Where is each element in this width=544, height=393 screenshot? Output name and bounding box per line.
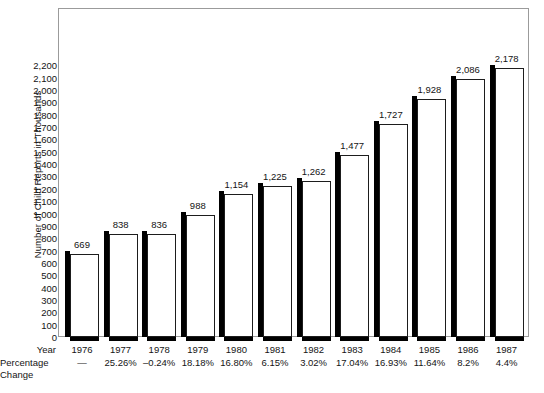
bar-front-face[interactable] <box>456 79 485 337</box>
bars-layer: 6698388369881,1541,2251,2621,4771,7271,9… <box>59 9 528 337</box>
bar-value-label: 836 <box>151 220 167 230</box>
y-axis-tick-label: 200 <box>14 308 57 318</box>
bar-group[interactable]: 669 <box>65 240 99 337</box>
y-axis-tick-label: 800 <box>14 234 57 244</box>
y-axis-tick-label: 100 <box>14 321 57 331</box>
bar-front-face[interactable] <box>109 234 138 337</box>
bar-value-label: 1,928 <box>418 85 442 95</box>
y-axis-tick-label: 600 <box>14 259 57 269</box>
row-header-percentage-change: Percentage Change <box>0 357 64 380</box>
bar-group[interactable]: 1,262 <box>297 167 331 337</box>
y-axis-tick-label: 1,100 <box>14 197 57 207</box>
bar-front-face[interactable] <box>495 68 524 337</box>
y-axis-tick-label: 1,000 <box>14 210 57 220</box>
y-axis-tick-label: 500 <box>14 271 57 281</box>
y-axis-tick-label: 1,500 <box>14 148 57 158</box>
bar-chart-figure: Number of Child Reports in Thousands 010… <box>0 0 544 393</box>
bar-front-face[interactable] <box>417 99 446 337</box>
bar-group[interactable]: 1,477 <box>335 141 369 337</box>
bar-value-label: 1,262 <box>302 167 326 177</box>
row-header-percentage-line1: Percentage <box>0 357 64 369</box>
bar-front-face[interactable] <box>340 155 369 337</box>
bar-group[interactable]: 836 <box>142 220 176 337</box>
y-axis-tick-label: 1,700 <box>14 123 57 133</box>
y-axis-tick-labels: 01002003004005006007008009001,0001,1001,… <box>14 8 57 338</box>
y-axis-tick-label: 2,200 <box>14 61 57 71</box>
row-header-year: Year <box>0 344 56 355</box>
y-axis-tick-label: 300 <box>14 296 57 306</box>
bar-value-label: 838 <box>113 220 129 230</box>
bar-value-label: 988 <box>190 201 206 211</box>
y-axis-tick-label: 1,900 <box>14 98 57 108</box>
bar-group[interactable]: 988 <box>181 201 215 337</box>
y-axis-tick-label: 1,800 <box>14 111 57 121</box>
bar-group[interactable]: 1,727 <box>374 110 408 337</box>
bar-front-face[interactable] <box>302 181 331 337</box>
y-axis-tick-label: 1,400 <box>14 160 57 170</box>
y-axis-tick-label: 2,100 <box>14 74 57 84</box>
percentage-change-cell: 4.4% <box>483 357 531 368</box>
y-axis-tick-label: 1,600 <box>14 135 57 145</box>
bar-front-face[interactable] <box>263 186 292 337</box>
bar-front-face[interactable] <box>224 194 253 337</box>
bar-value-label: 2,178 <box>495 54 519 64</box>
y-axis-tick-label: 700 <box>14 247 57 257</box>
bar-group[interactable]: 838 <box>104 220 138 337</box>
bar-value-label: 1,154 <box>225 180 249 190</box>
bar-value-label: 1,477 <box>340 141 364 151</box>
bar-value-label: 669 <box>74 240 90 250</box>
y-axis-tick-label: 1,300 <box>14 172 57 182</box>
row-header-percentage-line2: Change <box>0 369 64 381</box>
y-axis-tick-label: 400 <box>14 284 57 294</box>
bar-group[interactable]: 1,154 <box>219 180 253 337</box>
bar-group[interactable]: 1,225 <box>258 172 292 337</box>
bar-group[interactable]: 2,086 <box>451 65 485 337</box>
bar-value-label: 1,727 <box>379 110 403 120</box>
y-axis-tick-label: 1,200 <box>14 185 57 195</box>
bar-front-face[interactable] <box>70 254 99 337</box>
bar-front-face[interactable] <box>147 234 176 337</box>
year-cell: 1987 <box>483 344 531 355</box>
bar-front-face[interactable] <box>186 215 215 337</box>
bottom-label-table: Year Percentage Change 1976—197725.26%19… <box>0 341 544 391</box>
y-axis-tick-label: 2,000 <box>14 86 57 96</box>
bar-group[interactable]: 1,928 <box>412 85 446 337</box>
bar-front-face[interactable] <box>379 124 408 337</box>
bar-group[interactable]: 2,178 <box>490 54 524 337</box>
bar-value-label: 1,225 <box>263 172 287 182</box>
bar-value-label: 2,086 <box>456 65 480 75</box>
y-axis-tick-label: 900 <box>14 222 57 232</box>
